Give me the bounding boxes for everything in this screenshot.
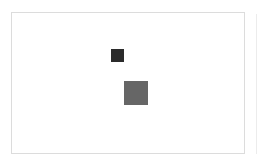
canvas — [0, 0, 258, 166]
small-dark-square — [111, 49, 124, 62]
right-edge-divider — [256, 14, 257, 154]
large-gray-square — [124, 81, 148, 105]
